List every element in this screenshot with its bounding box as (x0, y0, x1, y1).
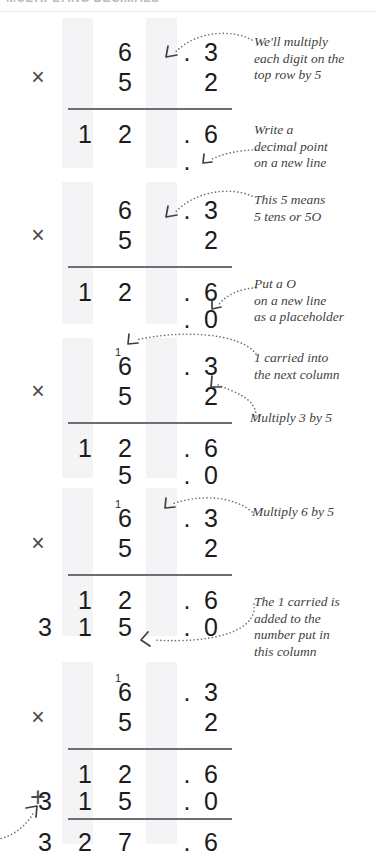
column-band-ones (146, 338, 177, 478)
digit-partial1-hundreds: 1 (72, 280, 98, 305)
note-line: number put in (254, 627, 376, 644)
digit-bottom-ones: 2 (198, 710, 224, 735)
digit-partial1-tenths: 6 (198, 122, 224, 147)
digit-total-point: . (176, 830, 198, 855)
note-line: the next column (254, 367, 376, 384)
digit-partial1-tens: 2 (112, 762, 138, 787)
digit-top-tens: 6 (112, 354, 138, 379)
digit-partial1-hundreds: 1 (72, 122, 98, 147)
note-line: as a placeholder (254, 309, 376, 326)
digit-partial2-thousands: 3 (32, 615, 58, 640)
digit-partial1-tens: 2 (112, 280, 138, 305)
digit-partial1-point: . (176, 762, 198, 787)
digit-partial1-tens: 2 (112, 122, 138, 147)
note-line: 1 carried into (254, 350, 376, 367)
sum-rule (68, 108, 232, 110)
step-5-block: × + 1 6 . 3 5 2 1 2 . 6 3 1 5 . 0 3 2 7 … (0, 658, 376, 844)
digit-partial1-point: . (176, 122, 198, 147)
note-line: Multiply 3 by 5 (250, 410, 376, 427)
note-line: on a new line (254, 293, 376, 310)
digit-bottom-tens: 5 (112, 70, 138, 95)
note-one-carried: 1 carried into the next column (254, 350, 376, 383)
note-line: decimal point (254, 139, 376, 156)
note-line: This 5 means (254, 192, 376, 209)
digit-total-thousands: 3 (32, 830, 58, 855)
digit-partial1-tens: 2 (112, 436, 138, 461)
note-line: added to the (254, 611, 376, 628)
digit-partial1-point: . (176, 588, 198, 613)
digit-bottom-tens: 5 (112, 536, 138, 561)
digit-partial2-tenths: 0 (198, 307, 224, 332)
digit-top-tens: 6 (112, 680, 138, 705)
total-rule (68, 818, 232, 820)
digit-top-tenths: 3 (198, 506, 224, 531)
note-line: 5 tens or 5O (254, 209, 376, 226)
digit-bottom-ones: 2 (198, 536, 224, 561)
digit-top-point: . (176, 680, 198, 705)
digit-total-tenths: 6 (198, 830, 224, 855)
note-line: top row by 5 (254, 67, 376, 84)
digit-partial2-hundreds: 1 (72, 789, 98, 814)
note-line: We'll multiply (254, 34, 376, 51)
step-4-block: × 1 6 . 3 5 2 1 2 . 6 3 1 . 5 . 0 (0, 484, 376, 644)
digit-partial2-point: . (176, 149, 198, 174)
digit-partial1-tenths: 6 (198, 436, 224, 461)
column-band-ones (146, 662, 177, 844)
digit-partial1-tens: 2 (112, 588, 138, 613)
digit-partial2-tenths: 0 (198, 615, 224, 640)
digit-partial2-point: . (176, 789, 198, 814)
sum-rule (68, 748, 232, 750)
digit-top-tenths: 3 (198, 198, 224, 223)
digit-top-tenths: 3 (198, 680, 224, 705)
step-3-block: × 1 6 . 3 5 2 1 2 . 6 5 . 0 1 (0, 332, 376, 482)
digit-bottom-tens: 5 (112, 710, 138, 735)
digit-bottom-tens: 5 (112, 228, 138, 253)
digit-top-point: . (176, 198, 198, 223)
sum-rule (68, 422, 232, 424)
digit-total-hundreds: 2 (72, 830, 98, 855)
digit-bottom-ones: 2 (198, 228, 224, 253)
digit-partial2-tens: 5 (112, 789, 138, 814)
digit-partial1-point: . (176, 436, 198, 461)
digit-partial2-point: . (176, 615, 198, 640)
note-line: each digit on the (254, 51, 376, 68)
sum-rule (68, 266, 232, 268)
note-line: Multiply 6 by 5 (252, 504, 376, 521)
note-multiply-3-by-5: Multiply 3 by 5 (250, 410, 376, 427)
note-multiply-6-by-5: Multiply 6 by 5 (252, 504, 376, 521)
operator-times: × (26, 380, 50, 403)
digit-top-tenths: 3 (198, 354, 224, 379)
digit-partial1-tenths: 6 (198, 588, 224, 613)
digit-top-tens: 6 (112, 198, 138, 223)
digit-partial1-hundreds: 1 (72, 588, 98, 613)
digit-partial2-tens-val: 5 (112, 615, 138, 640)
digit-partial1-hundreds: 1 (72, 762, 98, 787)
operator-times: × (26, 706, 50, 729)
digit-top-tens: 6 (112, 506, 138, 531)
digit-top-point: . (176, 40, 198, 65)
operator-times: × (26, 532, 50, 555)
column-band-ones (146, 182, 177, 324)
digit-partial2-hundreds: 1 (72, 615, 98, 640)
digit-total-tens: 7 (112, 830, 138, 855)
column-band-ones (146, 18, 177, 168)
digit-partial1-tenths: 6 (198, 280, 224, 305)
operator-times: × (26, 66, 50, 89)
column-band-ones (146, 488, 177, 636)
digit-bottom-ones: 2 (198, 384, 224, 409)
note-five-means-fifty: This 5 means 5 tens or 5O (254, 192, 376, 225)
column-band-tens (62, 662, 93, 844)
digit-partial1-tenths: 6 (198, 762, 224, 787)
note-line: Put a O (254, 276, 376, 293)
note-one-carried-added: The 1 carried is added to the number put… (254, 594, 376, 660)
digit-partial1-point: . (176, 280, 198, 305)
digit-partial2-point: . (176, 307, 198, 332)
digit-top-point: . (176, 506, 198, 531)
digit-bottom-ones: 2 (198, 70, 224, 95)
digit-top-tens: 6 (112, 40, 138, 65)
note-put-a-zero: Put a O on a new line as a placeholder (254, 276, 376, 326)
note-line: The 1 carried is (254, 594, 376, 611)
digit-partial2-tenths: 0 (198, 789, 224, 814)
sum-rule (68, 574, 232, 576)
